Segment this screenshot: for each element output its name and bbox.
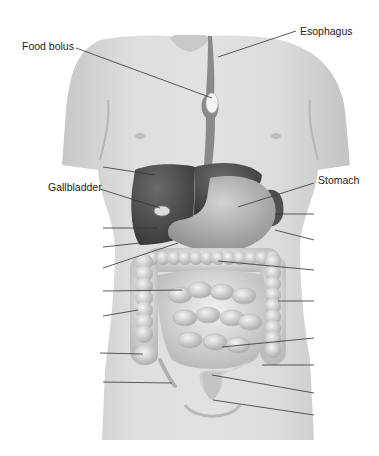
food-bolus (206, 93, 218, 113)
digestive-system-diagram: Food bolus Esophagus Gallbladder Stomach (0, 0, 379, 456)
intestine-loop (178, 332, 202, 348)
anatomy-illustration (0, 0, 379, 456)
haustrum (135, 325, 153, 343)
label-stomach: Stomach (318, 175, 359, 186)
gallbladder (154, 206, 170, 216)
label-esophagus: Esophagus (300, 26, 353, 37)
intestine-loop (203, 334, 227, 350)
intestine-loop (173, 310, 197, 326)
left-nipple (135, 133, 145, 139)
intestine-loop (210, 284, 234, 300)
intestine-loop (196, 307, 220, 323)
intestine-loop (238, 314, 262, 330)
label-food-bolus: Food bolus (22, 41, 74, 52)
intestine-loop (188, 282, 212, 298)
right-nipple (271, 133, 281, 139)
haustrum (265, 342, 281, 358)
label-gallbladder: Gallbladder (48, 182, 102, 193)
cecum (134, 345, 158, 365)
intestine-loop (232, 288, 256, 304)
